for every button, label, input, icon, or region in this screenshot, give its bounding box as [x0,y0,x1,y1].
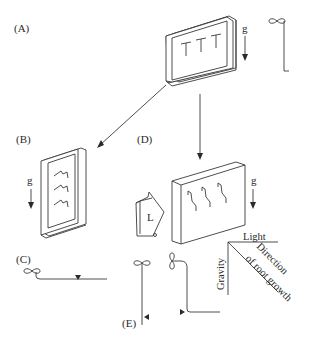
panel-d-label: (D) [137,133,153,146]
seedling-horizontal-root-icon [24,269,107,280]
panel-c-label: (C) [16,253,31,266]
panel-a-gravity-label: g [242,22,248,34]
seedling-vertical-root-icon [134,261,150,325]
panel-e-label: (E) [122,317,136,330]
arrow-a-to-b [97,85,166,148]
gravity-arrow-icon [242,36,248,61]
gravity-label: Gravity [215,257,226,290]
panel-d-plate [172,162,245,244]
seedling-vertical-icon [269,19,289,71]
panel-a-plate [166,16,236,86]
light-box-label: L [147,211,154,223]
growth-vector-diagram: Light Gravity Direction of root growth [215,231,295,304]
panel-b-label: (B) [16,133,31,146]
light-source-box: L [136,192,164,237]
panel-a-label: (A) [14,22,30,35]
panel-d-gravity-label: g [251,174,257,186]
panel-b-plate [41,148,86,238]
gravity-arrow-icon [28,189,34,209]
arrow-a-to-d [197,94,203,160]
root-gravitropism-diagram: (A) g (B) [0,0,310,338]
panel-b-gravity-label: g [27,174,33,186]
gravity-arrow-icon [250,189,256,209]
seedling-bent-root-icon [170,253,220,315]
